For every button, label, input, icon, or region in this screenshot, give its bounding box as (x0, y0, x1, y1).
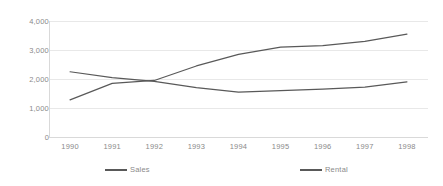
x-axis-line (49, 137, 428, 138)
legend-line-swatch-rental (300, 169, 322, 171)
y-tick-label: 0 (9, 134, 49, 142)
gridline-2000 (49, 79, 428, 80)
gridline-4000 (49, 21, 428, 22)
plot-area (49, 21, 428, 137)
gridline-1000 (49, 108, 428, 109)
x-tick-label: 1995 (261, 143, 301, 151)
legend-line-swatch-sales (105, 169, 127, 171)
legend-label-rental: Rental (325, 166, 348, 174)
x-tick-label: 1992 (134, 143, 174, 151)
x-tick-label: 1990 (50, 143, 90, 151)
x-tick-label: 1997 (345, 143, 385, 151)
legend-item-sales[interactable]: Sales (105, 164, 150, 176)
gridline-3000 (49, 50, 428, 51)
y-tick-label: 3,000 (9, 47, 49, 55)
x-axis-tick-labels: 199019911992199319941995199619971998 (49, 143, 428, 157)
y-tick-label: 1,000 (9, 105, 49, 113)
x-tick-label: 1991 (92, 143, 132, 151)
x-tick-label: 1996 (303, 143, 343, 151)
line-chart: 4,000 3,000 2,000 1,000 0 19901991199219… (0, 0, 443, 186)
y-axis-line (49, 21, 50, 138)
chart-legend: Sales Rental (0, 164, 443, 180)
y-tick-label: 2,000 (9, 76, 49, 84)
y-tick-label: 4,000 (9, 18, 49, 26)
legend-label-sales: Sales (130, 166, 150, 174)
x-tick-label: 1993 (176, 143, 216, 151)
legend-item-rental[interactable]: Rental (300, 164, 348, 176)
x-tick-label: 1994 (219, 143, 259, 151)
x-tick-label: 1998 (387, 143, 427, 151)
